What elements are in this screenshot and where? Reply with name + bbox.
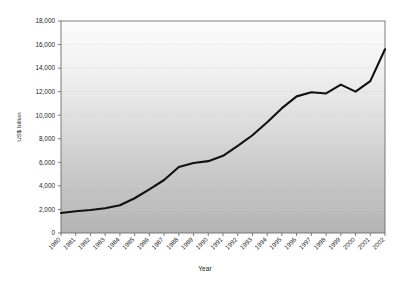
y-tick-label: 18,000 <box>35 17 55 24</box>
chart-figure: 02,0004,0006,0008,00010,00012,00014,0001… <box>0 0 410 286</box>
line-chart: 02,0004,0006,0008,00010,00012,00014,0001… <box>0 0 410 286</box>
y-tick-label: 2,000 <box>39 206 55 213</box>
y-tick-label: 4,000 <box>39 182 55 189</box>
y-tick-label: 10,000 <box>35 112 55 119</box>
y-tick-label: 8,000 <box>39 135 55 142</box>
y-tick-label: 12,000 <box>35 88 55 95</box>
y-tick-label: 14,000 <box>35 64 55 71</box>
y-axis-title: US$ billion <box>15 112 22 142</box>
y-tick-label: 0 <box>51 229 55 236</box>
x-axis-title: Year <box>198 265 212 272</box>
y-tick-label: 16,000 <box>35 41 55 48</box>
y-tick-label: 6,000 <box>39 159 55 166</box>
plot-background <box>61 21 385 233</box>
plot-area <box>58 21 385 236</box>
